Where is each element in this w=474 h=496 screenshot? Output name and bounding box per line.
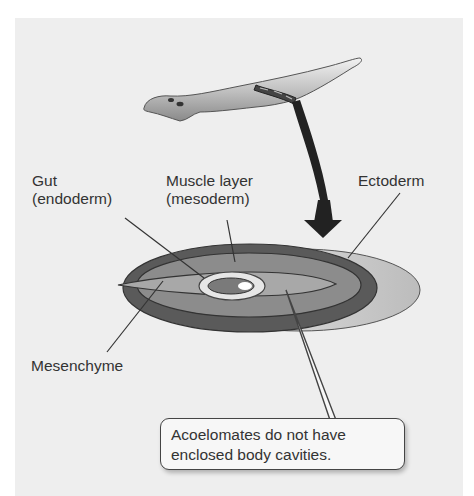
label-muscle-layer: Muscle layer (mesoderm) <box>166 172 253 208</box>
flatworm-icon <box>144 58 362 121</box>
label-mesenchyme: Mesenchyme <box>31 357 123 375</box>
arrow-icon <box>292 100 342 238</box>
cross-section <box>118 244 420 332</box>
callout-box: Acoelomates do not have enclosed body ca… <box>160 418 405 470</box>
label-ectoderm: Ectoderm <box>358 172 424 190</box>
label-gut: Gut (endoderm) <box>32 172 112 208</box>
